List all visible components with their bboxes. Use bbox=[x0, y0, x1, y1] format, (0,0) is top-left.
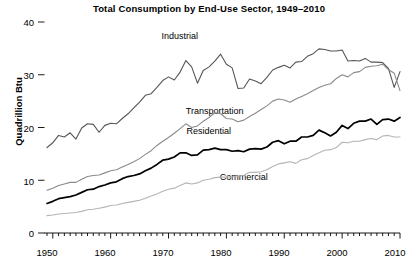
plot-area bbox=[0, 0, 418, 266]
series-line-industrial bbox=[47, 49, 400, 148]
series-line-commercial bbox=[47, 135, 400, 215]
chart-container: Total Consumption by End-Use Sector, 194… bbox=[0, 0, 418, 266]
